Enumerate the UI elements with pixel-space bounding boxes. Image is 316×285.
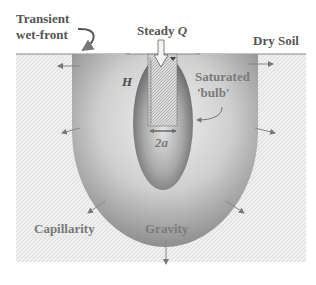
2a-label: 2a bbox=[154, 135, 169, 150]
wet-front-pointer-arrow bbox=[78, 29, 94, 50]
dry-soil-label: Dry Soil bbox=[253, 33, 299, 48]
transient-label-line1: Transient bbox=[16, 11, 70, 26]
saturated-label-line2: 'bulb' bbox=[197, 85, 230, 100]
steady-label: Steady bbox=[137, 23, 178, 38]
steady-q-label: Steady Q bbox=[137, 23, 188, 38]
gravity-label: Gravity bbox=[145, 221, 189, 236]
h-label: H bbox=[121, 74, 133, 89]
infiltration-diagram: Transient wet-front Steady Q Dry Soil H … bbox=[0, 0, 316, 285]
q-symbol: Q bbox=[178, 23, 188, 38]
capillarity-label: Capillarity bbox=[34, 221, 95, 236]
saturated-label-line1: Saturated bbox=[195, 69, 251, 84]
transient-label-line2: wet-front bbox=[16, 27, 68, 42]
